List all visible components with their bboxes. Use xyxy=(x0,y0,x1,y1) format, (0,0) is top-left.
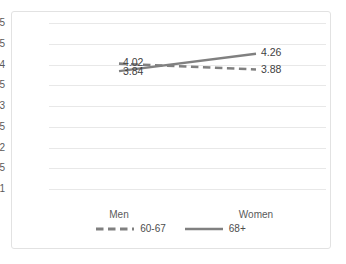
legend-label-60-67: 60-67 xyxy=(140,223,166,234)
legend-item-60-67[interactable]: 60-67 xyxy=(96,223,166,234)
y-tick-label-3.5: 3.5 xyxy=(0,80,5,90)
plot-area: 5 4.5 4 3.5 3 2.5 2 1.5 1 4.02 3.84 4.26… xyxy=(49,23,326,189)
chart-figure: 5 4.5 4 3.5 3 2.5 2 1.5 1 4.02 3.84 4.26… xyxy=(11,11,331,249)
y-tick-label-2.5: 2.5 xyxy=(0,122,5,132)
data-label-women-68plus: 4.26 xyxy=(261,47,281,58)
y-tick-label-2: 2 xyxy=(0,143,5,153)
legend-item-68plus[interactable]: 68+ xyxy=(185,223,246,234)
legend-swatch-solid-icon xyxy=(185,225,223,233)
y-tick-label-5: 5 xyxy=(0,18,5,28)
series-layer xyxy=(49,23,326,189)
y-tick-label-4: 4 xyxy=(0,60,5,70)
gridline-1 xyxy=(49,189,326,190)
chart-legend: 60-67 68+ xyxy=(12,223,330,234)
x-category-label-women: Women xyxy=(216,209,296,220)
legend-label-68plus: 68+ xyxy=(229,223,246,234)
y-tick-label-1.5: 1.5 xyxy=(0,163,5,173)
y-tick-label-3: 3 xyxy=(0,101,5,111)
legend-swatch-dashed-icon xyxy=(96,225,134,233)
y-tick-label-1: 1 xyxy=(0,184,5,194)
data-label-women-60-67: 3.88 xyxy=(261,64,281,75)
x-category-label-men: Men xyxy=(79,209,159,220)
data-label-men-68plus: 3.84 xyxy=(123,66,143,77)
y-tick-label-4.5: 4.5 xyxy=(0,39,5,49)
